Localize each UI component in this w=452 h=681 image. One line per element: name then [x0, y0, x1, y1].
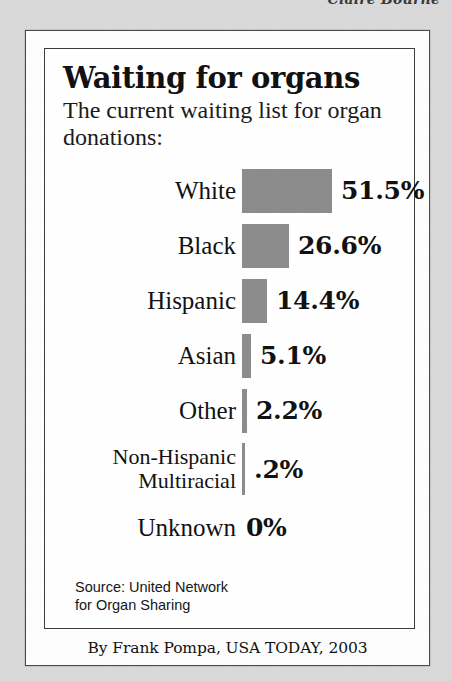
chart-title: Waiting for organs [57, 63, 402, 93]
bar-chart-plot: White 51.5% Black 26.6% Hispanic 14.4% [57, 163, 402, 555]
bar-label-other: Other [57, 398, 242, 423]
bar-label-hispanic: Hispanic [57, 288, 242, 313]
bar-track-white: 51.5% [242, 169, 424, 213]
chart-subtitle: The current waiting list for organ donat… [57, 97, 402, 151]
bar-row-white: White 51.5% [57, 163, 402, 218]
bar-value-hispanic: 14.4% [267, 286, 359, 315]
bar-row-other: Other 2.2% [57, 383, 402, 438]
bar-row-non-hispanic-multiracial: Non-Hispanic Multiracial .2% [57, 438, 402, 500]
running-head: Claire Bourne [0, 0, 440, 7]
bar-row-asian: Asian 5.1% [57, 328, 402, 383]
bar-value-white: 51.5% [332, 176, 424, 205]
bar-value-other: 2.2% [247, 396, 322, 425]
bar-value-unknown: 0% [242, 513, 287, 542]
bar-row-unknown: Unknown 0% [57, 500, 402, 555]
bar-row-black: Black 26.6% [57, 218, 402, 273]
figure-inner-frame: Waiting for organs The current waiting l… [44, 48, 415, 629]
bar-track-hispanic: 14.4% [242, 279, 359, 323]
bar-label-non-hispanic-multiracial: Non-Hispanic Multiracial [57, 445, 242, 494]
bar-value-asian: 5.1% [251, 341, 326, 370]
bar-hispanic [242, 279, 267, 323]
bar-label-asian: Asian [57, 343, 242, 368]
bar-track-unknown: 0% [242, 506, 287, 550]
bar-label-black: Black [57, 233, 242, 258]
byline-credit: By Frank Pompa, USA TODAY, 2003 [26, 639, 429, 657]
bar-value-black: 26.6% [289, 231, 381, 260]
figure-outer-frame: Waiting for organs The current waiting l… [25, 30, 430, 666]
bar-track-asian: 5.1% [242, 334, 326, 378]
bar-label-white: White [57, 178, 242, 203]
source-note: Source: United Network for Organ Sharing [75, 578, 228, 614]
bar-asian [242, 334, 251, 378]
bar-value-non-hispanic-multiracial: .2% [245, 455, 303, 484]
bar-row-hispanic: Hispanic 14.4% [57, 273, 402, 328]
bar-track-black: 26.6% [242, 224, 381, 268]
bar-track-non-hispanic-multiracial: .2% [242, 443, 303, 495]
bar-black [242, 224, 289, 268]
bar-track-other: 2.2% [242, 389, 322, 433]
bar-label-unknown: Unknown [57, 515, 242, 540]
bar-white [242, 169, 332, 213]
